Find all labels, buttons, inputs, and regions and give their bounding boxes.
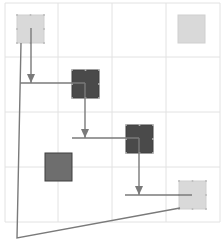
resize-handle[interactable] <box>178 180 180 182</box>
resize-handle[interactable] <box>30 14 32 16</box>
arrowhead-icon <box>81 129 89 138</box>
resize-handle[interactable] <box>205 180 207 182</box>
node-n2[interactable] <box>178 15 205 43</box>
resize-handle[interactable] <box>16 28 18 30</box>
resize-handle[interactable] <box>192 180 194 182</box>
resize-handle[interactable] <box>71 97 73 99</box>
resize-handle[interactable] <box>43 28 45 30</box>
resize-handle[interactable] <box>152 124 154 126</box>
resize-handle[interactable] <box>71 69 73 71</box>
resize-handle[interactable] <box>16 42 18 44</box>
resize-handle[interactable] <box>125 124 127 126</box>
arrowhead-icon <box>135 186 143 195</box>
resize-handle[interactable] <box>98 83 100 85</box>
resize-handle[interactable] <box>16 14 18 16</box>
resize-handle[interactable] <box>43 14 45 16</box>
diagram-canvas <box>0 0 224 239</box>
node-square[interactable] <box>178 15 205 43</box>
resize-handle[interactable] <box>98 69 100 71</box>
arrowhead-icon <box>27 74 35 83</box>
node-square[interactable] <box>45 153 72 181</box>
resize-handle[interactable] <box>205 208 207 210</box>
resize-handle[interactable] <box>139 124 141 126</box>
resize-handle[interactable] <box>98 97 100 99</box>
resize-handle[interactable] <box>125 152 127 154</box>
resize-handle[interactable] <box>43 42 45 44</box>
resize-handle[interactable] <box>205 194 207 196</box>
resize-handle[interactable] <box>192 208 194 210</box>
resize-handle[interactable] <box>85 69 87 71</box>
node-n5[interactable] <box>45 153 72 181</box>
resize-handle[interactable] <box>152 138 154 140</box>
resize-handle[interactable] <box>152 152 154 154</box>
